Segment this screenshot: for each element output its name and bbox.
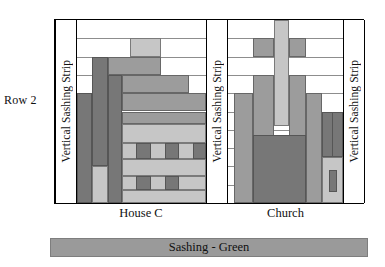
- vertical-sashing-strip-middle: Vertical Sashing Strip: [206, 20, 228, 203]
- house-c-patch-window-2a: [136, 176, 150, 191]
- row-label: Row 2: [4, 93, 52, 108]
- house-c-patch-facade-band-2: [122, 112, 206, 125]
- house-c-patch-roof-lower: [122, 75, 189, 93]
- block-caption-house-c: House C: [76, 206, 206, 221]
- vertical-sashing-strip-left: Vertical Sashing Strip: [55, 20, 77, 203]
- quilt-row-frame: Vertical Sashing Strip Vertical Sashing …: [54, 19, 364, 204]
- house-c-patch-foundation: [122, 190, 206, 203]
- vertical-sashing-strip-left-label: Vertical Sashing Strip: [60, 60, 72, 163]
- quilt-block-church: [228, 20, 343, 203]
- block-caption-church: Church: [228, 206, 343, 221]
- house-c-patch-roof-peak: [130, 38, 161, 56]
- church-patch-steeple-spire: [274, 20, 289, 126]
- vertical-sashing-strip-right: Vertical Sashing Strip: [343, 20, 365, 203]
- horizontal-sashing-bar-label: Sashing - Green: [169, 240, 250, 255]
- house-c-patch-window-1b: [165, 143, 179, 159]
- church-patch-cross-arm-left: [253, 38, 274, 56]
- horizontal-sashing-bar: Sashing - Green: [50, 238, 368, 257]
- vertical-sashing-strip-right-label: Vertical Sashing Strip: [348, 60, 360, 163]
- house-c-patch-window-2b: [165, 176, 179, 191]
- house-c-patch-facade-band-3: [122, 124, 206, 142]
- house-c-patch-facade-band-1: [122, 93, 206, 111]
- church-patch-cross-arm-right: [289, 38, 306, 56]
- house-c-patch-roof-upper: [108, 57, 161, 75]
- house-c-patch-window-1c: [193, 143, 206, 159]
- church-patch-nave-left-wall: [234, 93, 254, 203]
- house-c-patch-facade-band-4: [122, 159, 206, 175]
- church-patch-annex-upper-2: [322, 112, 332, 158]
- house-c-patch-wall-left-light: [92, 166, 107, 203]
- house-c-patch-wall-mid-dark: [108, 75, 122, 203]
- church-patch-door-block: [253, 135, 306, 203]
- quilt-block-house-c: [77, 20, 206, 203]
- house-c-patch-window-1a: [136, 143, 150, 159]
- vertical-sashing-strip-middle-label: Vertical Sashing Strip: [211, 60, 223, 163]
- house-c-patch-chimney-left: [92, 57, 107, 167]
- house-c-patch-wall-left: [77, 93, 92, 203]
- church-patch-annex-window: [329, 170, 337, 192]
- church-patch-nave-right-wall: [306, 93, 322, 203]
